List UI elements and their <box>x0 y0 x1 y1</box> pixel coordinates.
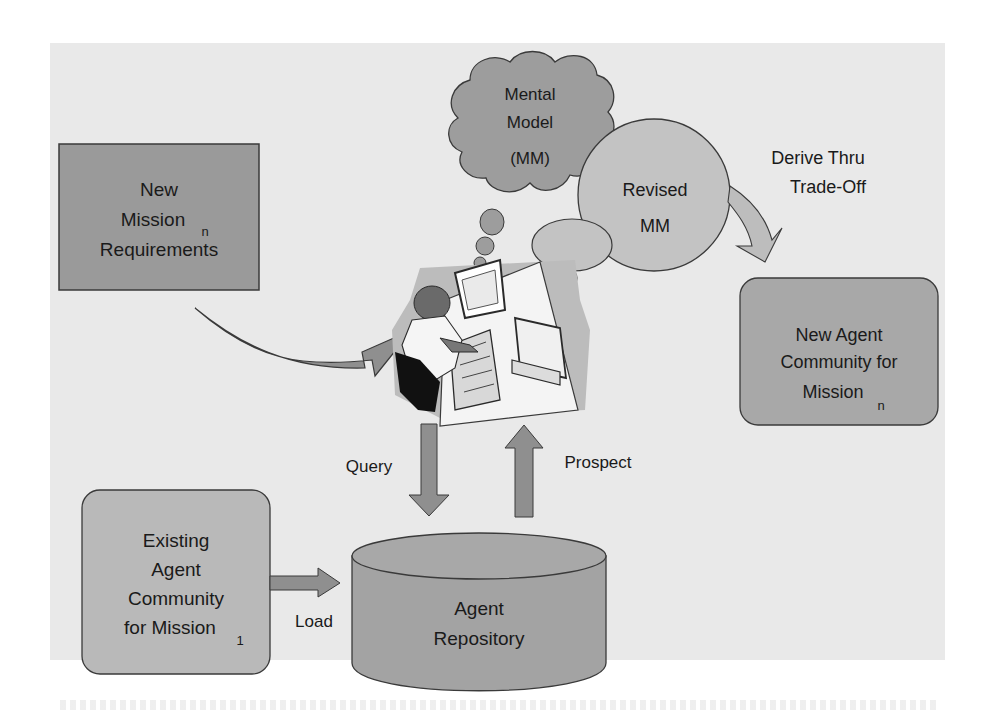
agent-repository-cylinder: Agent Repository <box>352 533 606 691</box>
new-agent-community-box: New Agent Community for Mission n <box>740 278 938 425</box>
mental-model-line2: Model <box>507 113 553 132</box>
person-at-computer-illustration <box>392 260 590 426</box>
existing-community-subscript: 1 <box>236 633 243 648</box>
new-community-line3: Mission <box>802 382 863 402</box>
existing-community-line2: Agent <box>151 559 201 580</box>
new-mission-subscript: n <box>201 224 208 239</box>
repository-line1: Agent <box>454 598 504 619</box>
thought-dot-icon <box>476 237 494 255</box>
mental-model-line1: Mental <box>504 85 555 104</box>
new-community-line2: Community for <box>780 352 897 372</box>
existing-community-line3: Community <box>128 588 225 609</box>
load-label: Load <box>295 612 333 631</box>
new-mission-line2: Mission <box>121 209 185 230</box>
new-community-line1: New Agent <box>795 325 882 345</box>
new-mission-requirements-box: New Mission n Requirements <box>59 144 259 290</box>
existing-community-line1: Existing <box>143 530 210 551</box>
revised-mm-line1: Revised <box>622 180 687 200</box>
query-label: Query <box>346 457 393 476</box>
derive-label-line1: Derive Thru <box>771 148 865 168</box>
revised-mm-line2: MM <box>640 216 670 236</box>
thought-dot-icon <box>480 209 504 235</box>
derive-label-line2: Trade-Off <box>790 177 867 197</box>
existing-agent-community-box: Existing Agent Community for Mission 1 <box>82 490 270 674</box>
diagram-canvas: New Mission n Requirements Mental Model … <box>0 0 996 723</box>
existing-community-line4: for Mission <box>124 617 216 638</box>
new-mission-line1: New <box>140 179 178 200</box>
mental-model-line3: (MM) <box>510 149 550 168</box>
new-community-subscript: n <box>877 398 884 413</box>
new-mission-line3: Requirements <box>100 239 218 260</box>
prospect-label: Prospect <box>564 453 631 472</box>
repository-line2: Repository <box>434 628 525 649</box>
